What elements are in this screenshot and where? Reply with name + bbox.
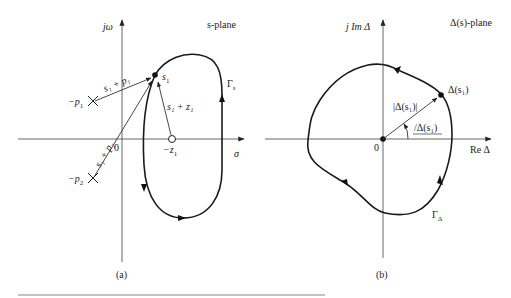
magnitude-label: |Δ(s₁)| xyxy=(393,101,417,113)
zero-z1 xyxy=(169,136,176,143)
s1-label: s1 xyxy=(162,71,170,85)
pole-p1-label: −p1 xyxy=(68,96,84,110)
jomega-label: jω xyxy=(101,21,113,32)
vec-p2-label: s₁ + p₂ xyxy=(92,139,116,169)
delta-s1-label: Δ(s₁) xyxy=(448,84,468,96)
panel-a-s-plane: jω σ 0 s-plane Γs s1 −p1 −p2 −z1 xyxy=(18,19,244,281)
caption-a: (a) xyxy=(116,269,127,281)
angle-label: /Δ(s₁) xyxy=(414,122,437,134)
caption-b: (b) xyxy=(376,269,388,281)
origin-label-b: 0 xyxy=(374,142,379,153)
contour-gamma-s xyxy=(143,54,222,218)
pole-p2-x xyxy=(88,173,98,183)
point-s1 xyxy=(152,72,158,78)
point-delta-s1 xyxy=(438,92,444,98)
angle-arc xyxy=(404,124,408,139)
pole-p2-label: −p2 xyxy=(68,173,84,187)
origin-label-a: 0 xyxy=(114,142,119,153)
zero-z1-label: −z1 xyxy=(163,144,178,158)
vec-z1-label: s₁ + z₁ xyxy=(167,101,193,112)
contour-arrow-right xyxy=(178,215,186,221)
diagram-canvas: jω σ 0 s-plane Γs s1 −p1 −p2 −z1 xyxy=(0,0,511,298)
panel-b-delta-plane: j Im Δ Re Δ 0 Δ(s)-plane ΓΔ Δ(s₁) |Δ(s₁)… xyxy=(265,17,493,281)
gamma-delta-label: ΓΔ xyxy=(432,209,443,223)
re-delta-label: Re Δ xyxy=(470,144,491,155)
contour-arrow-lower-left xyxy=(341,179,348,186)
im-delta-label: j Im Δ xyxy=(344,21,370,32)
contour-arrow-up xyxy=(219,94,225,102)
s-plane-label: s-plane xyxy=(207,19,236,30)
pole-p1-x xyxy=(88,96,98,106)
contour-arrow-down xyxy=(141,184,147,192)
vec-p1-label: s₁ + p₁ xyxy=(102,73,132,94)
delta-plane-label: Δ(s)-plane xyxy=(450,17,493,29)
sigma-label: σ xyxy=(234,148,240,159)
gamma-s-label: Γs xyxy=(227,78,236,92)
